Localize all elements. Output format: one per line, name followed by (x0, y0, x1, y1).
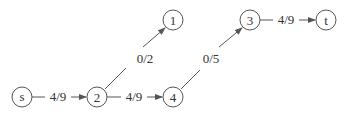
node-4: 4 (163, 87, 183, 107)
edge-label: 4/9 (50, 89, 67, 104)
edge-s-to-2: 4/9 (32, 89, 86, 104)
edge-2-to-1: 0/2 (105, 28, 165, 89)
arrow-icon (219, 28, 242, 47)
edge-4-to-3: 0/5 (181, 28, 242, 89)
edge-label: 0/2 (137, 51, 154, 66)
arrow-icon (143, 28, 165, 47)
flow-network-diagram: 4/9 4/9 0/2 0/5 4/9 s 2 4 1 (0, 0, 347, 116)
node-label: 4 (170, 90, 177, 105)
node-label: s (19, 89, 24, 104)
node-1: 1 (163, 10, 183, 30)
edge-label: 4/9 (278, 12, 295, 27)
edge-3-to-t: 4/9 (260, 12, 315, 27)
node-t: t (316, 10, 336, 30)
node-s: s (12, 87, 32, 107)
edge-2-to-4: 4/9 (107, 89, 162, 104)
node-label: 1 (170, 13, 177, 28)
edge-label: 4/9 (126, 89, 143, 104)
node-label: 3 (247, 13, 254, 28)
node-3: 3 (240, 10, 260, 30)
node-label: 2 (94, 90, 101, 105)
node-label: t (324, 13, 328, 28)
edge-label: 0/5 (203, 51, 220, 66)
node-2: 2 (87, 87, 107, 107)
